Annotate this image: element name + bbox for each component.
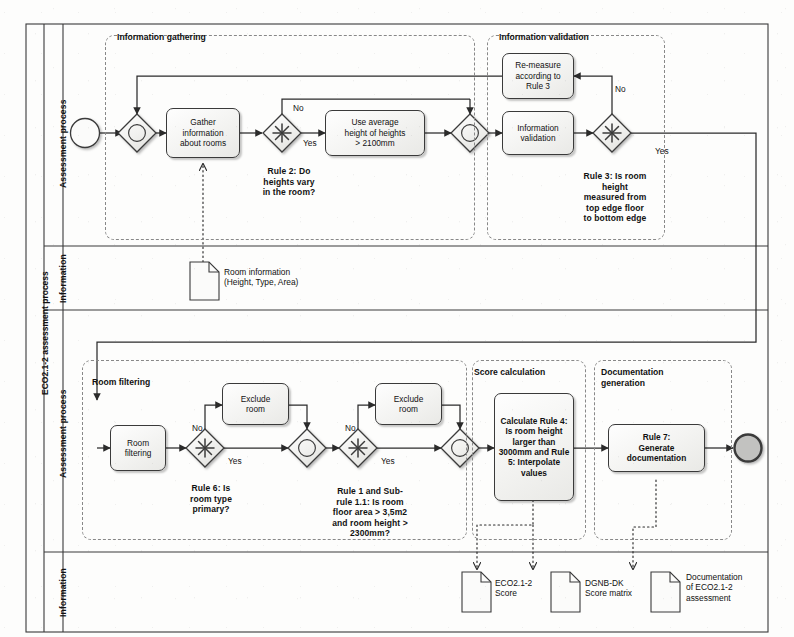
start-event — [71, 119, 100, 148]
flow-label-rule1-no: No — [345, 423, 356, 433]
gateway-label-rule6: Rule 6: Is room type primary? — [169, 483, 253, 515]
gateway-merge-1 — [118, 114, 156, 152]
gateway-label-rule3: Rule 3: Is room height measured from top… — [566, 171, 664, 224]
group-label-information-gathering: Information gathering — [117, 32, 206, 43]
flow-label-rule6-no: No — [192, 423, 203, 433]
task-gather-information[interactable]: Gather information about rooms — [166, 108, 240, 158]
bpmn-diagram-canvas: Information gathering Information valida… — [0, 0, 794, 637]
task-calculate-rule4[interactable]: Calculate Rule 4: Is room height larger … — [494, 393, 574, 501]
gateway-rule1 — [339, 429, 377, 467]
task-exclude-room-1[interactable]: Exclude room — [222, 383, 289, 425]
data-object-eco-score — [462, 572, 491, 612]
data-object-label-room-information: Room information (Height, Type, Area) — [224, 267, 298, 288]
data-object-room-information — [190, 262, 219, 300]
gateway-merge-4 — [441, 429, 479, 467]
task-room-filtering[interactable]: Room filtering — [110, 425, 166, 471]
flow-label-rule3-no: No — [615, 84, 626, 94]
gateway-label-rule2: Rule 2: Do heights vary in the room? — [241, 166, 337, 198]
data-object-label-documentation: Documentation of ECO2.1-2 assessment — [686, 572, 742, 603]
group-label-documentation-generation: Documentation generation — [601, 367, 664, 388]
lane-label-information-bottom: Information — [58, 568, 68, 617]
task-information-validation[interactable]: Information validation — [502, 111, 574, 155]
gateway-label-rule1: Rule 1 and Sub- rule 1.1: Is room floor … — [312, 486, 428, 539]
data-object-label-dgnb-score-matrix: DGNB-DK Score matrix — [585, 578, 632, 599]
gateway-rule6 — [186, 429, 224, 467]
flow-label-rule3-yes: Yes — [655, 146, 669, 156]
lane-label-information-top: Information — [58, 254, 68, 303]
flow-label-rule2-yes: Yes — [303, 138, 317, 148]
data-object-documentation — [651, 572, 680, 612]
task-exclude-room-2[interactable]: Exclude room — [375, 383, 442, 425]
flow-label-rule1-yes: Yes — [381, 456, 395, 466]
gateway-rule2 — [263, 114, 301, 152]
task-use-average-height[interactable]: Use average height of heights > 2100mm — [325, 110, 425, 156]
lane-label-assessment-process-bottom: Assessment process — [58, 389, 68, 478]
end-event — [735, 435, 762, 462]
gateway-rule3 — [593, 114, 631, 152]
diagram-vector-layer — [0, 0, 794, 637]
data-object-dgnb-score-matrix — [551, 572, 580, 612]
group-label-score-calculation: Score calculation — [474, 367, 545, 378]
gateway-merge-2 — [451, 114, 489, 152]
flow-label-rule6-yes: Yes — [228, 456, 242, 466]
gateway-merge-3 — [288, 429, 326, 467]
task-remeasure[interactable]: Re-measure according to Rule 3 — [502, 53, 574, 99]
pool-title: ECO2.1-2 assessment process — [40, 271, 50, 395]
lane-label-assessment-process-top: Assessment process — [58, 99, 68, 188]
task-generate-documentation[interactable]: Rule 7: Generate documentation — [608, 424, 705, 472]
group-label-information-validation: Information validation — [499, 32, 589, 43]
flow-label-rule2-no: No — [293, 103, 304, 113]
group-label-room-filtering: Room filtering — [92, 377, 150, 388]
data-object-label-eco-score: ECO2.1-2 Score — [495, 578, 532, 599]
